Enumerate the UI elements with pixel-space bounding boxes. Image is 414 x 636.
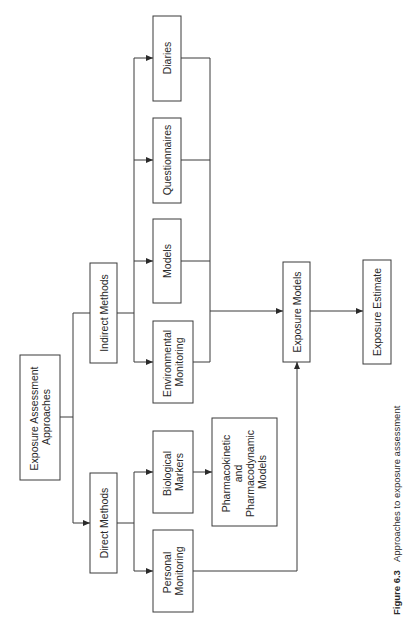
- node-pharmacokinetic-pharmacodynamic-models: Pharmacokinetic and Pharmacodynamic Mode…: [212, 418, 277, 526]
- node-exposure-estimate: Exposure Estimate: [363, 260, 391, 364]
- node-label: Exposure Models: [291, 271, 303, 352]
- node-label: Pharmacokinetic: [220, 435, 232, 513]
- node-label: Indirect Methods: [98, 274, 110, 352]
- svg-text:Exposure Estimate: Exposure Estimate: [371, 268, 383, 356]
- svg-text:Indirect Methods: Indirect Methods: [98, 274, 110, 352]
- node-diaries: Diaries: [153, 16, 181, 101]
- node-label: Models: [256, 455, 268, 489]
- node-label: Approaches: [40, 389, 52, 445]
- svg-text:Exposure Models: Exposure Models: [291, 271, 303, 352]
- node-biological-markers: Biological Markers: [153, 431, 193, 513]
- node-label: Direct Methods: [98, 488, 110, 559]
- node-personal-monitoring: Personal Monitoring: [153, 530, 193, 612]
- node-label: Exposure Assessment: [28, 366, 40, 470]
- node-environmental-monitoring: Environmental Monitoring: [153, 321, 193, 403]
- node-label: Pharmacodynamic: [244, 430, 256, 517]
- figure-caption: Figure 6.3 Approaches to exposure assess…: [391, 405, 402, 615]
- node-label: Environmental: [161, 330, 173, 397]
- node-indirect-methods: Indirect Methods: [90, 263, 117, 363]
- node-label: Diaries: [161, 42, 173, 75]
- svg-text:Direct Methods: Direct Methods: [98, 488, 110, 559]
- node-questionnaires: Questionnaires: [153, 118, 181, 203]
- svg-text:Diaries: Diaries: [161, 42, 173, 75]
- svg-text:Models: Models: [161, 244, 173, 278]
- figure-number: Figure 6.3: [391, 570, 402, 615]
- node-label: Personal: [161, 552, 173, 593]
- node-label: Exposure Estimate: [371, 268, 383, 356]
- node-label: Markers: [173, 453, 185, 491]
- node-models: Models: [153, 219, 181, 303]
- node-label: Monitoring: [173, 337, 185, 386]
- node-direct-methods: Direct Methods: [90, 473, 117, 573]
- svg-text:Biological Markers: Biological Markers: [161, 448, 185, 496]
- node-label: Models: [161, 244, 173, 278]
- svg-text:Personal Monitoring: Personal Monitoring: [161, 546, 185, 595]
- node-label: Questionnaires: [161, 125, 173, 196]
- node-exposure-assessment-approaches: Exposure Assessment Approaches: [20, 355, 60, 480]
- node-label: Biological: [161, 451, 173, 496]
- node-label: Monitoring: [173, 546, 185, 595]
- node-label: and: [232, 465, 244, 483]
- caption-text: Approaches to exposure assessment: [391, 405, 402, 562]
- node-exposure-models: Exposure Models: [283, 262, 310, 362]
- svg-text:Questionnaires: Questionnaires: [161, 125, 173, 196]
- flowchart: Exposure Assessment Approaches Direct Me…: [0, 0, 414, 636]
